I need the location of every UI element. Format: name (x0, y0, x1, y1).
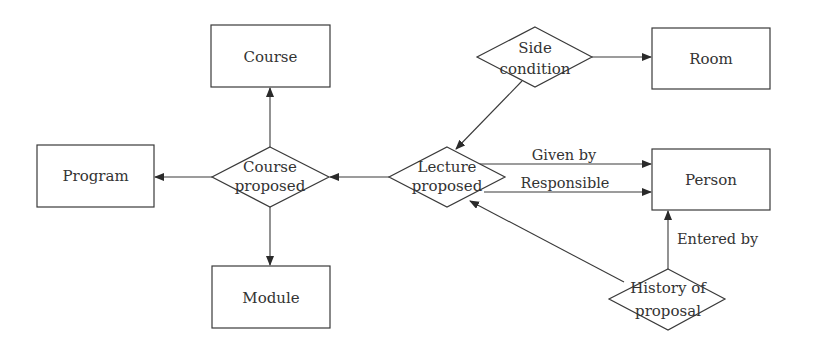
edge-label-responsible: Responsible (521, 175, 610, 191)
relationship-lecture-proposed-line1: Lecture (418, 158, 477, 176)
edge-history-to-lecture (470, 201, 624, 282)
entity-course: Course (211, 25, 330, 87)
entity-person-label: Person (685, 171, 737, 189)
edge-label-given-by: Given by (532, 147, 597, 163)
edge-side-condition-to-lecture (456, 81, 522, 149)
relationship-side-condition: Side condition (477, 27, 592, 87)
entity-room: Room (652, 28, 770, 89)
relationship-lecture-proposed-line2: proposed (412, 177, 483, 195)
entity-program-label: Program (62, 167, 128, 185)
relationship-side-condition-line2: condition (499, 60, 570, 78)
entity-person: Person (652, 149, 770, 210)
relationship-lecture-proposed: Lecture proposed (389, 147, 505, 207)
edge-label-entered-by: Entered by (677, 231, 759, 247)
relationship-history-line1: History of (630, 279, 707, 297)
entity-course-label: Course (244, 48, 298, 66)
entity-module-label: Module (242, 289, 299, 307)
relationship-course-proposed-line2: proposed (235, 177, 306, 195)
relationship-side-condition-line1: Side (518, 39, 552, 57)
relationship-history-of-proposal: History of proposal (609, 269, 725, 330)
entity-room-label: Room (689, 50, 733, 68)
relationship-history-line2: proposal (635, 302, 701, 320)
relationship-course-proposed: Course proposed (212, 147, 329, 207)
entity-program: Program (37, 145, 154, 207)
relationship-course-proposed-line1: Course (243, 158, 297, 176)
er-diagram: Course Program Module Room Person Course… (0, 0, 814, 347)
entity-module: Module (212, 266, 330, 328)
